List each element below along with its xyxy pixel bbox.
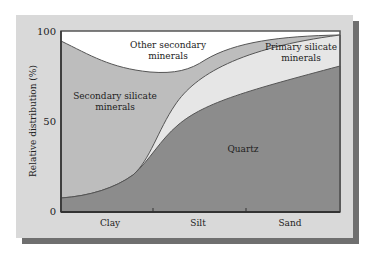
label-primary-silicate-2: minerals: [281, 53, 321, 63]
label-other-secondary-1: Other secondary: [130, 40, 207, 50]
y-tick-0: 0: [50, 206, 56, 217]
x-label-silt: Silt: [190, 218, 206, 228]
label-primary-silicate-1: Primary silicate: [265, 42, 337, 52]
x-label-sand: Sand: [278, 218, 301, 228]
label-secondary-silicate-1: Secondary silicate: [73, 91, 157, 101]
y-axis-label: Relative distribution (%): [28, 65, 38, 177]
y-tick-50: 50: [43, 116, 56, 127]
label-other-secondary-2: minerals: [148, 51, 188, 61]
label-quartz: Quartz: [227, 144, 258, 154]
mineral-distribution-chart: 100 50 0 Relative distribution (%) Clay …: [0, 0, 373, 255]
x-label-clay: Clay: [100, 218, 121, 228]
label-secondary-silicate-2: minerals: [95, 102, 135, 112]
y-tick-100: 100: [37, 26, 56, 37]
